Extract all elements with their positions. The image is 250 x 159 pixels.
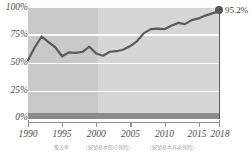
x-axis-label-1990: 1990 xyxy=(19,130,38,140)
endpoint-value-label: 95.2% xyxy=(225,5,248,15)
x-axis-tick-1995 xyxy=(62,122,63,127)
caption-cell-2: （城镇基本养老保险） xyxy=(147,145,197,151)
baseline-bar xyxy=(28,113,219,119)
x-axis-label-2000: 2000 xyxy=(87,130,106,140)
x-axis-label-1995: 1995 xyxy=(53,130,72,140)
x-axis-tick-1990 xyxy=(28,120,29,127)
line-chart: 100% 75% 50% 25% 0% 95.2% 1990 1995 2000… xyxy=(0,0,250,159)
x-axis-label-2010: 2010 xyxy=(155,130,174,140)
y-axis-label-100: 100% xyxy=(6,3,28,13)
x-axis-tick-2015 xyxy=(199,122,200,127)
x-axis-label-2018: 2018 xyxy=(211,130,230,140)
plot-area xyxy=(28,6,219,119)
endpoint-dropline xyxy=(219,10,221,119)
x-axis-tick-2005 xyxy=(130,122,131,127)
x-axis-line xyxy=(28,122,219,123)
y-axis-label-75: 75% xyxy=(11,30,28,40)
series-coverage-rate xyxy=(28,6,219,119)
caption-cell-1: （城镇基本医疗保险） xyxy=(83,145,133,151)
caption-cell-0: 覆盖率 xyxy=(54,145,69,151)
chart-caption: 覆盖率 （城镇基本医疗保险） （城镇基本养老保险） xyxy=(0,145,250,159)
endpoint-marker-dot xyxy=(215,6,223,14)
x-axis-label-2005: 2005 xyxy=(121,130,140,140)
x-axis-label-2015: 2015 xyxy=(188,130,207,140)
y-axis-label-25: 25% xyxy=(11,86,28,96)
x-axis-tick-2010 xyxy=(165,122,166,127)
y-axis-label-50: 50% xyxy=(11,58,28,68)
y-axis-label-0: 0% xyxy=(15,113,28,123)
x-axis-tick-2000 xyxy=(96,122,97,127)
x-axis-tick-2018 xyxy=(219,120,220,127)
